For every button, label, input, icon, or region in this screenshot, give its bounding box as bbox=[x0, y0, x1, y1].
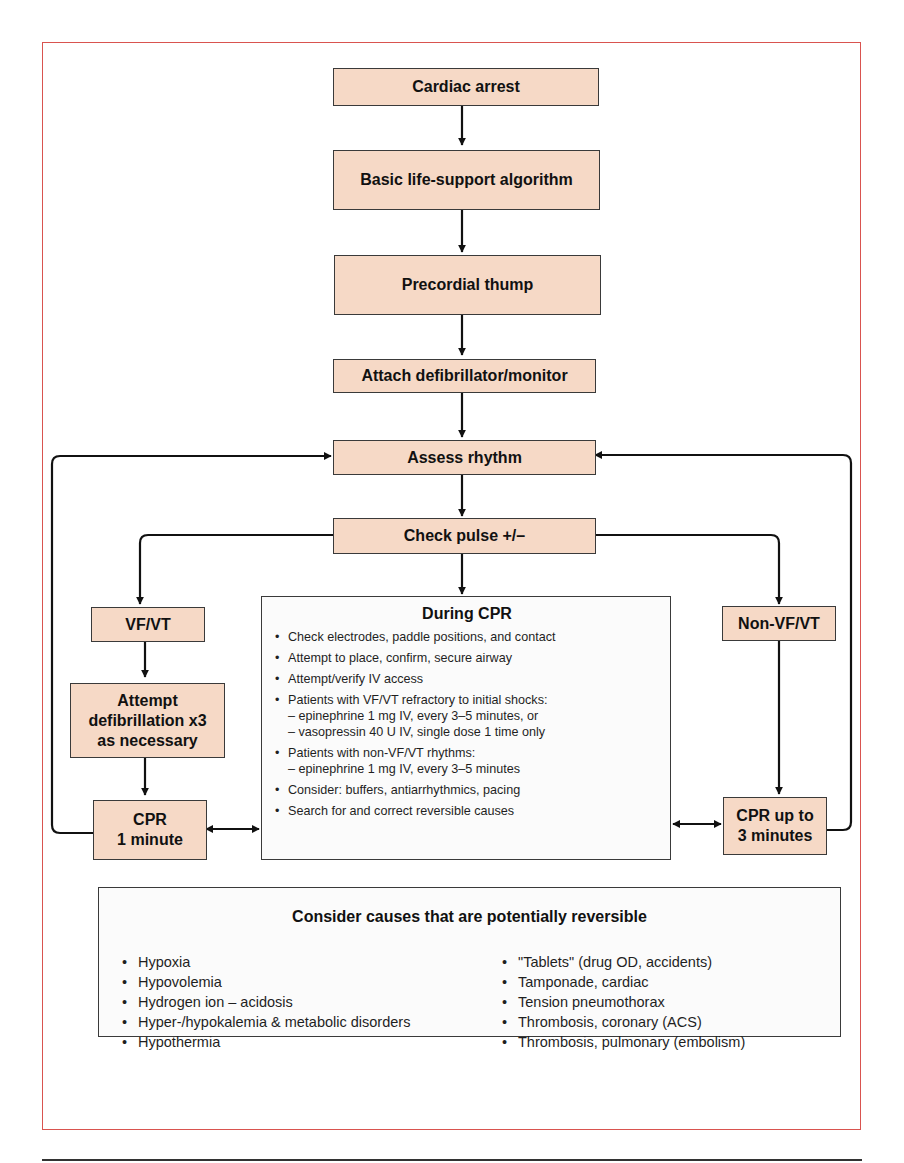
list-item: Thrombosis, pulmonary (embolism) bbox=[500, 1032, 745, 1052]
item-text: Attempt to place, confirm, secure airway bbox=[288, 651, 512, 665]
list-item: Patients with non-VF/VT rhythms: – epine… bbox=[274, 745, 660, 777]
list-item: Patients with VF/VT refractory to initia… bbox=[274, 692, 660, 740]
list-item: Tension pneumothorax bbox=[500, 992, 745, 1012]
node-label: VF/VT bbox=[125, 615, 170, 635]
during-cpr-list: Check electrodes, paddle positions, and … bbox=[274, 629, 660, 819]
list-item: Hypothermia bbox=[120, 1032, 500, 1052]
list-item: Attempt/verify IV access bbox=[274, 671, 660, 687]
item-text: Consider: buffers, antiarrhythmics, paci… bbox=[288, 783, 520, 797]
node-attempt-defibrillation: Attempt defibrillation x3 as necessary bbox=[70, 683, 225, 758]
node-label: Cardiac arrest bbox=[412, 77, 520, 97]
item-subtext: – epinephrine 1 mg IV, every 3–5 minutes… bbox=[288, 708, 660, 724]
node-vf-vt: VF/VT bbox=[91, 607, 205, 642]
node-label: Check pulse +/– bbox=[404, 526, 525, 546]
node-label-line3: as necessary bbox=[97, 731, 198, 751]
item-text: Patients with VF/VT refractory to initia… bbox=[288, 693, 547, 707]
list-item: Thrombosis, coronary (ACS) bbox=[500, 1012, 745, 1032]
node-label: Assess rhythm bbox=[407, 448, 522, 468]
item-text: Search for and correct reversible causes bbox=[288, 804, 514, 818]
reversible-causes-title: Consider causes that are potentially rev… bbox=[99, 908, 840, 926]
node-label: Attach defibrillator/monitor bbox=[361, 366, 567, 386]
list-item: Check electrodes, paddle positions, and … bbox=[274, 629, 660, 645]
item-text: Check electrodes, paddle positions, and … bbox=[288, 630, 555, 644]
causes-list-h: Hypoxia Hypovolemia Hydrogen ion – acido… bbox=[120, 952, 500, 1052]
reversible-causes-panel: Consider causes that are potentially rev… bbox=[98, 887, 841, 1037]
node-label-line2: defibrillation x3 bbox=[88, 711, 206, 731]
list-item: Hydrogen ion – acidosis bbox=[120, 992, 500, 1012]
bottom-divider bbox=[42, 1159, 862, 1161]
list-item: Hyper-/hypokalemia & metabolic disorders bbox=[120, 1012, 500, 1032]
item-subtext: – vasopressin 40 U IV, single dose 1 tim… bbox=[288, 724, 660, 740]
item-text: Attempt/verify IV access bbox=[288, 672, 423, 686]
node-label: Non-VF/VT bbox=[738, 614, 820, 634]
during-cpr-title: During CPR bbox=[274, 605, 660, 623]
list-item: "Tablets" (drug OD, accidents) bbox=[500, 952, 745, 972]
item-text: Patients with non-VF/VT rhythms: bbox=[288, 746, 475, 760]
node-basic-life-support: Basic life-support algorithm bbox=[333, 150, 600, 210]
node-assess-rhythm: Assess rhythm bbox=[333, 440, 596, 475]
node-label-line1: CPR up to bbox=[736, 806, 813, 826]
list-item: Attempt to place, confirm, secure airway bbox=[274, 650, 660, 666]
causes-columns: Hypoxia Hypovolemia Hydrogen ion – acido… bbox=[99, 952, 840, 1052]
node-check-pulse: Check pulse +/– bbox=[333, 518, 596, 554]
list-item: Hypovolemia bbox=[120, 972, 500, 992]
node-attach-defibrillator: Attach defibrillator/monitor bbox=[333, 359, 596, 393]
list-item: Tamponade, cardiac bbox=[500, 972, 745, 992]
causes-list-t: "Tablets" (drug OD, accidents) Tamponade… bbox=[500, 952, 745, 1052]
node-precordial-thump: Precordial thump bbox=[334, 255, 601, 315]
item-subtext: – epinephrine 1 mg IV, every 3–5 minutes bbox=[288, 761, 660, 777]
node-label-line2: 1 minute bbox=[117, 830, 183, 850]
node-cpr-1-minute: CPR 1 minute bbox=[93, 800, 207, 860]
node-label-line1: CPR bbox=[133, 810, 167, 830]
node-label-line1: Attempt bbox=[117, 691, 177, 711]
node-non-vf-vt: Non-VF/VT bbox=[722, 606, 836, 641]
node-cpr-up-to-3-minutes: CPR up to 3 minutes bbox=[723, 797, 827, 855]
during-cpr-panel: During CPR Check electrodes, paddle posi… bbox=[261, 596, 671, 860]
node-cardiac-arrest: Cardiac arrest bbox=[333, 68, 599, 106]
node-label: Precordial thump bbox=[402, 275, 534, 295]
node-label-line2: 3 minutes bbox=[738, 826, 813, 846]
list-item: Consider: buffers, antiarrhythmics, paci… bbox=[274, 782, 660, 798]
node-label: Basic life-support algorithm bbox=[360, 170, 572, 190]
list-item: Search for and correct reversible causes bbox=[274, 803, 660, 819]
list-item: Hypoxia bbox=[120, 952, 500, 972]
